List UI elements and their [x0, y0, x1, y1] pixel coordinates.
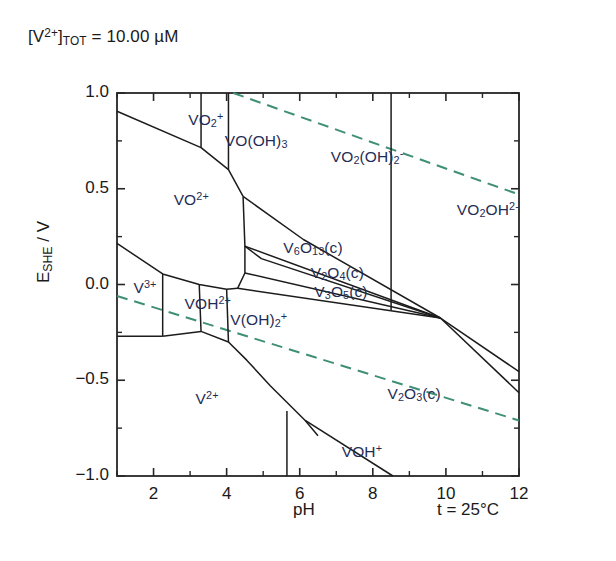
- species-label: VO2+: [188, 110, 223, 129]
- x-tick-label: 2: [129, 484, 179, 504]
- boundary-line: [117, 111, 243, 196]
- boundary-line: [440, 318, 519, 393]
- x-tick-label: 12: [494, 484, 544, 504]
- species-label: VO2OH2-: [457, 200, 519, 219]
- species-label: V2+: [196, 389, 219, 408]
- species-label: V6O13(c): [283, 239, 342, 257]
- species-label: VOH+: [342, 442, 382, 461]
- species-label: VO(OH)3: [225, 132, 288, 150]
- species-label: V2O4(c): [311, 264, 364, 282]
- pourbaix-diagram-figure: [V2+]TOT = 10.00 µM ESHE / V pH t = 25°C…: [0, 0, 616, 561]
- y-tick-label: −1.0: [51, 465, 109, 485]
- boundary-line: [163, 331, 201, 336]
- hydrogen-line: [117, 296, 519, 420]
- species-label: VOH2+: [185, 294, 231, 313]
- y-tick-label: 0.5: [51, 178, 109, 198]
- boundary-line: [440, 318, 519, 372]
- species-label: VO2(OH)2-: [331, 147, 404, 166]
- species-label: V2O3(c): [387, 385, 440, 403]
- y-tick-label: 1.0: [51, 82, 109, 102]
- y-tick-label: −0.5: [51, 369, 109, 389]
- x-tick-label: 10: [421, 484, 471, 504]
- species-label: V(OH)2+: [230, 310, 287, 329]
- boundary-line: [201, 331, 318, 435]
- y-tick-label: 0.0: [51, 274, 109, 294]
- species-label: V3O5(c): [314, 283, 367, 301]
- species-label: VO2+: [174, 190, 209, 209]
- x-tick-label: 6: [275, 484, 325, 504]
- species-label: V3+: [133, 278, 156, 297]
- x-tick-label: 4: [202, 484, 252, 504]
- x-tick-label: 8: [348, 484, 398, 504]
